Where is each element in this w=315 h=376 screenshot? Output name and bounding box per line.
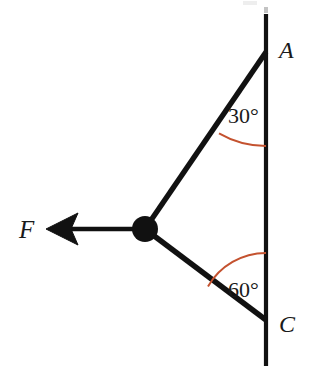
label-angle-60: 60° xyxy=(228,277,259,302)
label-point-c: C xyxy=(279,311,296,337)
joint-node xyxy=(132,216,158,242)
label-angle-30: 30° xyxy=(228,103,259,128)
label-force-f: F xyxy=(18,216,35,243)
force-diagram: A C F 30° 60° xyxy=(0,0,315,376)
label-point-a: A xyxy=(277,37,294,63)
diagram-canvas: A C F 30° 60° xyxy=(0,0,315,376)
